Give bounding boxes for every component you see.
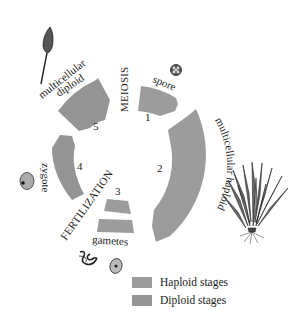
legend-item-diploid: Diploid stages bbox=[132, 292, 228, 308]
zygote-cell-icon bbox=[20, 173, 34, 190]
stage-number-4: 4 bbox=[77, 160, 83, 172]
legend-item-haploid: Haploid stages bbox=[132, 274, 228, 290]
segment-2-multicellular-haploid bbox=[152, 109, 206, 242]
meiosis-label: MEIOSIS bbox=[118, 67, 130, 112]
stage-number-3: 3 bbox=[115, 185, 121, 197]
diploid-swatch bbox=[132, 295, 152, 306]
legend: Haploid stages Diploid stages bbox=[132, 274, 228, 310]
legend-label-diploid: Diploid stages bbox=[160, 294, 226, 306]
stage-number-5: 5 bbox=[93, 120, 99, 132]
haploid-swatch bbox=[132, 277, 152, 288]
stage-number-1: 1 bbox=[145, 111, 151, 123]
legend-label-haploid: Haploid stages bbox=[160, 276, 228, 288]
stage-number-2: 2 bbox=[157, 162, 163, 174]
zygote-label: zygote bbox=[40, 163, 52, 192]
gametes-label: gametes bbox=[92, 233, 129, 247]
segment-3-gamete-bar-1 bbox=[104, 199, 131, 214]
egg-icon bbox=[108, 257, 123, 275]
segment-3-gamete-bar-2 bbox=[97, 219, 134, 233]
spore-icon bbox=[171, 65, 182, 76]
sperm-icon bbox=[79, 252, 97, 265]
sporophyte-capsule-icon bbox=[41, 27, 53, 84]
